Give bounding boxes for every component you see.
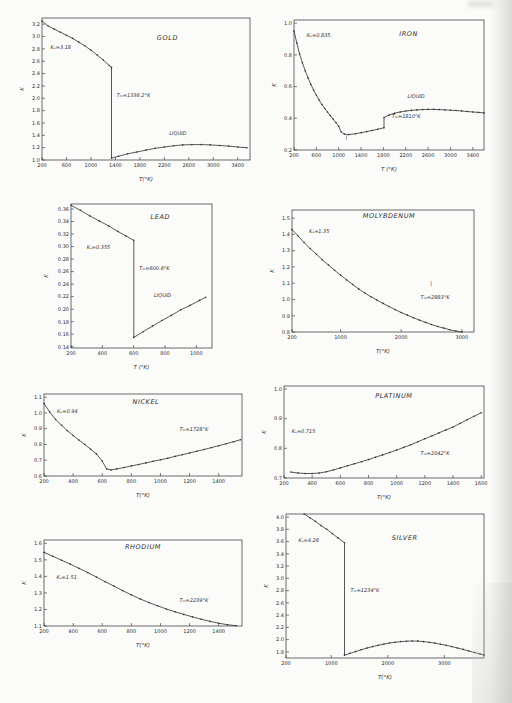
data-point-marker <box>438 432 440 434</box>
data-point-marker <box>96 54 98 56</box>
data-point-marker <box>424 438 426 440</box>
data-point-marker <box>164 146 166 148</box>
data-point-marker <box>473 416 475 418</box>
x-tick-label: 200 <box>39 628 49 634</box>
data-point-marker <box>480 412 482 414</box>
y-tick-label: 1.2 <box>34 606 42 612</box>
data-point-marker <box>406 640 408 642</box>
data-point-marker <box>49 411 51 413</box>
data-point-marker <box>110 469 112 471</box>
y-tick-label: 1.3 <box>34 590 42 596</box>
plot-iron: 0.20.40.60.81.02006001000140018002200260… <box>268 14 492 174</box>
data-point-marker <box>290 471 292 473</box>
data-point-marker <box>358 288 360 290</box>
x-tick-label: 2200 <box>399 152 412 158</box>
data-point-marker <box>411 640 413 642</box>
y-tick-label: 2.6 <box>276 600 284 606</box>
data-point-marker <box>340 467 342 469</box>
y-tick-label: 0.9 <box>282 313 290 319</box>
data-point-marker <box>102 59 104 61</box>
data-point-marker <box>127 153 129 155</box>
x-tick-label: 1400 <box>109 162 122 168</box>
chart-title: GOLD <box>157 34 178 42</box>
x-tick-label: 2600 <box>422 152 435 158</box>
plot-nickel: 0.60.70.80.91.01.12004006008001000120014… <box>18 388 250 500</box>
data-point-marker <box>313 89 315 91</box>
data-point-marker <box>246 147 248 149</box>
data-point-marker <box>173 145 175 147</box>
data-point-marker <box>225 443 227 445</box>
y-tick-label: 1.8 <box>32 107 40 113</box>
plot-silver: 1.82.02.22.42.62.83.03.23.43.63.84.02001… <box>260 508 492 682</box>
series-liquid <box>134 297 206 337</box>
data-point-marker <box>389 642 391 644</box>
data-point-marker <box>152 325 154 327</box>
x-tick-label: 800 <box>160 350 170 356</box>
data-point-marker <box>84 45 86 47</box>
plot-molybdenum: 0.80.91.01.11.21.31.41.5200100020003000T… <box>266 204 482 356</box>
y-tick-label: 0.32 <box>58 231 69 237</box>
data-point-marker <box>433 109 435 111</box>
y-tick-label: 1.0 <box>284 20 292 26</box>
annotation-label: Tₘ=1234°K <box>350 587 380 593</box>
y-tick-label: 0.20 <box>58 306 69 312</box>
annotation-label: Tₘ=600.6°K <box>139 265 170 271</box>
data-point-marker <box>320 525 322 527</box>
data-point-marker <box>307 77 309 79</box>
data-point-marker <box>330 115 332 117</box>
data-point-marker <box>303 242 305 244</box>
data-point-marker <box>413 317 415 319</box>
x-tick-label: 600 <box>336 480 346 486</box>
data-point-marker <box>228 145 230 147</box>
data-point-marker <box>293 30 295 32</box>
data-point-marker <box>344 654 346 656</box>
data-point-marker <box>354 463 356 465</box>
data-point-marker <box>191 144 193 146</box>
x-tick-label: 200 <box>39 478 49 484</box>
y-axis-label: K <box>271 83 277 87</box>
chart-lead: 0.140.160.180.200.220.240.260.280.300.32… <box>40 198 220 372</box>
data-point-marker <box>459 423 461 425</box>
y-tick-label: 1.1 <box>282 280 290 286</box>
y-tick-label: 0.4 <box>284 115 292 121</box>
data-point-marker <box>396 449 398 451</box>
data-point-marker <box>189 452 191 454</box>
data-point-marker <box>106 468 108 470</box>
y-tick-label: 3.0 <box>276 575 284 581</box>
data-point-marker <box>78 568 80 570</box>
data-point-marker <box>352 284 354 286</box>
data-point-marker <box>209 144 211 146</box>
x-tick-label: 200 <box>289 152 299 158</box>
chart-gold: 1.01.21.41.61.82.02.22.42.62.83.03.22006… <box>16 12 258 184</box>
x-tick-label: 3000 <box>444 152 457 158</box>
plot-lead: 0.140.160.180.200.220.240.260.280.300.32… <box>40 198 220 372</box>
chart-silver: 1.82.02.22.42.62.83.03.23.43.63.84.02001… <box>260 508 492 682</box>
data-point-marker <box>136 151 138 153</box>
y-tick-label: 0.36 <box>58 206 69 212</box>
y-tick-label: 2.0 <box>32 95 40 101</box>
y-tick-label: 1.0 <box>34 410 42 416</box>
y-axis-label: K <box>263 584 269 588</box>
data-point-marker <box>72 435 74 437</box>
data-point-marker <box>360 132 362 134</box>
data-point-marker <box>139 598 141 600</box>
data-point-marker <box>368 459 370 461</box>
data-point-marker <box>96 576 98 578</box>
data-point-marker <box>66 35 68 37</box>
y-tick-label: 2.0 <box>276 636 284 642</box>
data-point-marker <box>237 146 239 148</box>
data-point-marker <box>461 331 463 333</box>
data-point-marker <box>377 128 379 130</box>
data-point-marker <box>483 112 485 114</box>
y-tick-label: 1.0 <box>274 386 282 392</box>
data-point-marker <box>466 111 468 113</box>
y-tick-label: 2.2 <box>32 83 40 89</box>
series-solid <box>294 31 384 135</box>
data-point-marker <box>449 329 451 331</box>
plot-gold: 1.01.21.41.61.82.02.22.42.62.83.03.22006… <box>16 12 258 184</box>
data-point-marker <box>422 109 424 111</box>
y-tick-label: 3.2 <box>32 21 40 27</box>
data-point-marker <box>154 148 156 150</box>
x-tick-label: 400 <box>98 350 108 356</box>
y-tick-label: 2.4 <box>32 70 40 76</box>
